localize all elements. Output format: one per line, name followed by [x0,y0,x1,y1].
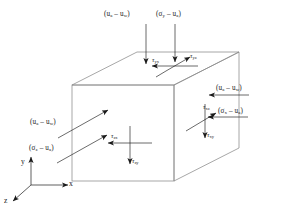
label-right-suction: (ua – uw) [216,85,242,92]
label-right-net-stress-close: ) [240,107,243,115]
label-top-net-stress-sub1: y [162,13,165,18]
cube-right-face [174,52,239,181]
tau-y-cross-tail-d [156,71,166,77]
label-right-suction-close: ) [239,84,242,92]
cube-front-face [72,85,174,181]
label-tau-xz: τxz [203,104,210,111]
arrow-tau-yz [166,57,190,71]
label-tau-yx: τyx [152,57,159,64]
label-top-suction-sub2: w [124,13,128,18]
label-top-net-stress: (σy – ua) [156,11,181,18]
axis-z-line [13,185,31,201]
label-top-suction-mid: – u [112,10,123,18]
label-tau-xy: τxy [207,132,214,139]
label-front-net-stress-sub1: z [35,147,37,152]
label-tau-xz-sub: xz [205,106,209,111]
axis-label-x: x [69,180,73,188]
label-tau-xy-sub: xy [209,134,214,139]
label-front-suction-mid: – u [38,118,49,126]
label-right-net-stress-sub1: x [224,110,227,115]
top-face-arrows [146,24,198,77]
arrow-tau-xz [196,113,216,125]
label-tau-zy: τzy [132,158,139,165]
label-front-suction-sub2: w [50,121,54,126]
axis-label-y: y [21,158,25,166]
label-tau-zx: τzx [111,133,118,140]
tau-x-cross-tail-d [186,125,196,131]
front-face-arrows [57,110,152,164]
label-top-net-stress-close: ) [178,10,181,18]
label-front-net-stress-sub2: a [49,147,51,152]
label-tau-zy-sub: zy [134,160,138,165]
label-front-suction-close: ) [53,118,56,126]
label-right-suction-mid: – u [224,84,235,92]
label-right-net-stress-mid: – u [227,107,238,115]
label-top-suction-close: ) [127,10,130,18]
right-face-arrows [186,95,249,138]
arrow-front-suction [58,110,108,138]
label-front-net-stress-mid: – u [38,144,49,152]
label-front-net-stress-close: ) [51,144,54,152]
label-front-net-stress: (σz – ua) [29,145,54,152]
label-front-suction: (ua – uw) [30,119,56,126]
label-top-net-stress-mid: – u [165,10,176,18]
label-right-suction-sub2: w [236,87,240,92]
axis-label-z: z [4,197,7,205]
label-tau-yz: τyz [190,53,197,60]
label-top-suction: (ua – uw) [104,11,130,18]
arrow-front-net-stress [57,135,107,163]
label-tau-zx-sub: zx [113,135,117,140]
label-tau-yz-sub: yz [192,55,196,60]
label-right-net-stress: (σx – ua) [218,108,243,115]
label-tau-yx-sub: yx [154,59,159,64]
figure-canvas: (ua – uw) (σy – ua) τyx τyz (ua – uw) (σ… [0,0,285,220]
